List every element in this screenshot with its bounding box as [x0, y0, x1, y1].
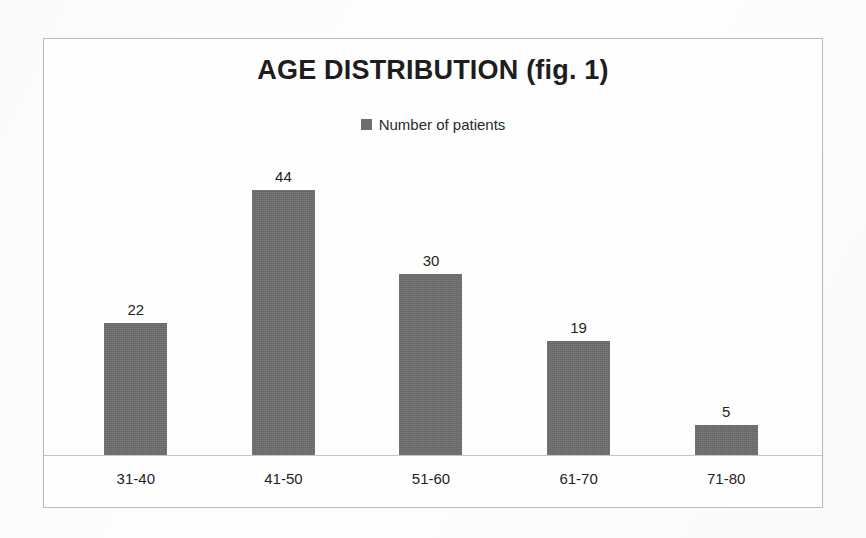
bar-rect-71-80[interactable]	[695, 425, 758, 455]
plot-area: 22 44 30 19 5	[62, 139, 800, 455]
chart-legend: Number of patients	[44, 116, 822, 133]
category-label-51-60: 51-60	[357, 470, 505, 487]
legend-swatch-icon	[361, 119, 372, 130]
bar-group-61-70: 19	[505, 139, 653, 455]
legend-label-number-of-patients: Number of patients	[379, 116, 506, 133]
bar-rect-51-60[interactable]	[399, 274, 462, 455]
category-label-61-70: 61-70	[505, 470, 653, 487]
category-label-71-80: 71-80	[652, 470, 800, 487]
bar-value-label: 19	[570, 320, 587, 335]
bar-group-71-80: 5	[652, 139, 800, 455]
bar-group-41-50: 44	[210, 139, 358, 455]
category-label-31-40: 31-40	[62, 470, 210, 487]
bar-value-label: 5	[722, 404, 730, 419]
bar-group-51-60: 30	[357, 139, 505, 455]
bar-value-label: 30	[423, 253, 440, 268]
chart-title: AGE DISTRIBUTION (fig. 1)	[44, 55, 822, 86]
bar-value-label: 22	[127, 302, 144, 317]
bar-value-label: 44	[275, 169, 292, 184]
bars-row: 22 44 30 19 5	[62, 139, 800, 455]
x-axis-line	[44, 455, 822, 456]
bar-rect-61-70[interactable]	[547, 341, 610, 455]
bar-group-31-40: 22	[62, 139, 210, 455]
category-axis-labels: 31-40 41-50 51-60 61-70 71-80	[62, 470, 800, 487]
bar-rect-31-40[interactable]	[104, 323, 167, 455]
category-label-41-50: 41-50	[210, 470, 358, 487]
bar-rect-41-50[interactable]	[252, 190, 315, 455]
chart-frame: AGE DISTRIBUTION (fig. 1) Number of pati…	[43, 38, 823, 508]
